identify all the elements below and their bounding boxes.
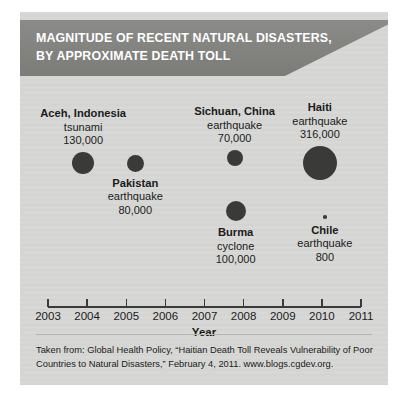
citation-line-2: Countries to Natural Disasters,” Februar… <box>36 358 374 372</box>
citation-line-1: Taken from: Global Health Policy, “Haiti… <box>36 344 374 358</box>
label-death-toll: 800 <box>297 251 352 265</box>
label-death-toll: 130,000 <box>40 134 126 148</box>
axis-tick <box>282 299 284 307</box>
axis-tick-label-2005: 2005 <box>113 310 139 322</box>
bubble-haiti[interactable] <box>303 146 337 180</box>
label-chile: Chileearthquake800 <box>297 224 352 265</box>
bubble-plot: Aceh, Indonesiatsunami130,000Pakistanear… <box>20 76 388 306</box>
axis-title-year: Year <box>20 326 388 338</box>
axis-tick <box>360 299 362 307</box>
label-place: Sichuan, China <box>194 105 275 119</box>
axis-tick-label-2004: 2004 <box>74 310 100 322</box>
bubble-pakistan[interactable] <box>127 155 144 172</box>
axis-tick <box>86 299 88 307</box>
bubble-burma[interactable] <box>226 201 246 221</box>
label-pakistan: Pakistanearthquake80,000 <box>108 177 163 218</box>
label-death-toll: 80,000 <box>108 204 163 218</box>
axis-tick-label-2008: 2008 <box>231 310 257 322</box>
label-disaster-type: earthquake <box>194 119 275 133</box>
label-place: Pakistan <box>108 177 163 191</box>
axis-tick <box>126 299 128 307</box>
label-place: Haiti <box>292 101 347 115</box>
source-citation: Taken from: Global Health Policy, “Haiti… <box>36 344 374 371</box>
axis-tick-label-2006: 2006 <box>153 310 179 322</box>
label-disaster-type: tsunami <box>40 121 126 135</box>
label-disaster-type: earthquake <box>108 190 163 204</box>
bubble-sichuan-china[interactable] <box>227 150 243 166</box>
label-death-toll: 316,000 <box>292 128 347 142</box>
label-death-toll: 70,000 <box>194 132 275 146</box>
infographic-panel: MAGNITUDE OF RECENT NATURAL DISASTERS, B… <box>20 12 388 385</box>
label-disaster-type: earthquake <box>292 115 347 129</box>
axis-tick-label-2003: 2003 <box>35 310 61 322</box>
bubble-aceh-indonesia[interactable] <box>72 152 94 174</box>
label-place: Chile <box>297 224 352 238</box>
label-aceh-indonesia: Aceh, Indonesiatsunami130,000 <box>40 107 126 148</box>
header-banner: MAGNITUDE OF RECENT NATURAL DISASTERS, B… <box>20 20 388 76</box>
label-haiti: Haitiearthquake316,000 <box>292 101 347 142</box>
footer-separator <box>36 334 372 335</box>
x-axis: Year 20032004200520062007200820092010201… <box>20 298 388 344</box>
axis-tick <box>165 299 167 307</box>
label-burma: Burmacyclone100,000 <box>216 226 256 267</box>
label-place: Aceh, Indonesia <box>40 107 126 121</box>
bubble-chile[interactable] <box>323 215 327 219</box>
title-line-1: MAGNITUDE OF RECENT NATURAL DISASTERS, <box>36 31 332 45</box>
axis-tick <box>204 299 206 307</box>
label-disaster-type: cyclone <box>216 240 256 254</box>
axis-tick-label-2009: 2009 <box>270 310 296 322</box>
axis-tick-label-2010: 2010 <box>309 310 335 322</box>
axis-tick <box>243 299 245 307</box>
label-sichuan-china: Sichuan, Chinaearthquake70,000 <box>194 105 275 146</box>
label-disaster-type: earthquake <box>297 237 352 251</box>
axis-tick <box>47 299 49 307</box>
label-place: Burma <box>216 226 256 240</box>
axis-tick <box>321 299 323 307</box>
title-line-2: BY APPROXIMATE DEATH TOLL <box>36 49 230 63</box>
axis-tick-label-2011: 2011 <box>349 310 374 322</box>
label-death-toll: 100,000 <box>216 253 256 267</box>
axis-tick-label-2007: 2007 <box>192 310 218 322</box>
